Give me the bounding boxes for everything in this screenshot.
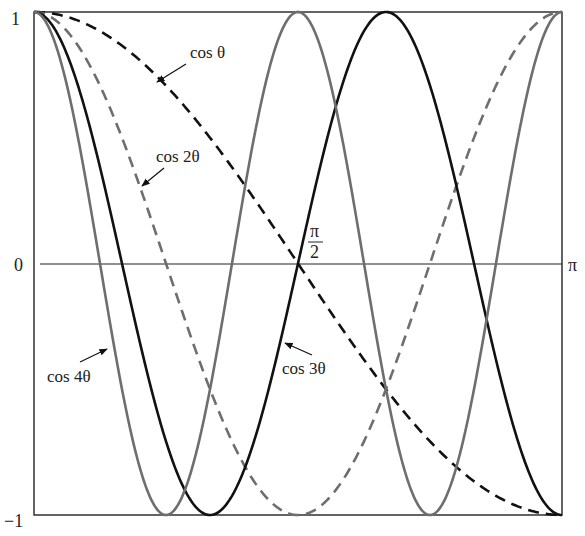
y-tick-1: 1 <box>11 9 20 29</box>
label-cos-2theta: cos 2θ <box>156 147 200 166</box>
arrow-cos-theta <box>157 64 186 82</box>
arrow-cos-2theta <box>142 168 164 186</box>
arrow-cos-3theta <box>285 343 312 355</box>
label-cos-4theta: cos 4θ <box>47 367 91 386</box>
x-tick-pi-half-num: π <box>310 221 319 241</box>
y-tick-0: 0 <box>14 255 23 275</box>
label-cos-3theta: cos 3θ <box>282 359 326 378</box>
y-tick-minus-1: −1 <box>4 511 23 531</box>
arrow-cos-4theta <box>80 349 107 362</box>
chebyshev-cosine-chart: 1 0 −1 π π 2 cos θ cos 2θ cos 3θ cos 4θ <box>0 0 585 536</box>
x-tick-pi-half-den: 2 <box>310 242 319 262</box>
label-cos-theta: cos θ <box>190 43 225 62</box>
x-tick-pi: π <box>568 255 577 275</box>
